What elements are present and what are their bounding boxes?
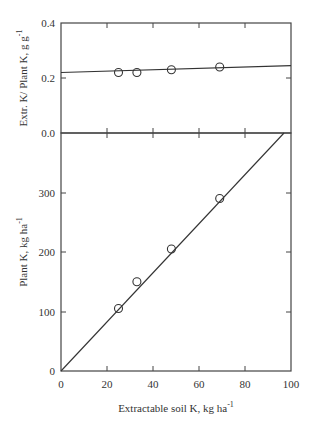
data-point (115, 305, 123, 313)
bottom-panel-ticks (61, 193, 291, 371)
xtick-label: 80 (240, 378, 252, 390)
top-y-axis-title: Extr. K/ Plant K, g g-1 (15, 30, 29, 127)
top-panel-x-ticks (61, 23, 291, 138)
bottom-ytick-label: 0 (50, 365, 56, 377)
data-point (133, 278, 141, 286)
xtick-label: 60 (194, 378, 206, 390)
bottom-ytick-label: 200 (39, 246, 56, 258)
top-ytick-label: 0.4 (41, 17, 55, 29)
bottom-data-points (115, 195, 224, 313)
x-axis-title: Extractable soil K, kg ha-1 (118, 400, 234, 414)
bottom-ytick-label: 300 (39, 187, 56, 199)
xtick-label: 40 (148, 378, 160, 390)
xtick-label: 100 (283, 378, 300, 390)
data-point (216, 63, 224, 71)
data-point (167, 245, 175, 253)
top-panel-frame (61, 23, 291, 133)
bottom-fit-line (61, 133, 284, 371)
top-ytick-label: 0.2 (41, 72, 55, 84)
xtick-label: 0 (58, 378, 64, 390)
data-point (115, 69, 123, 77)
bottom-ytick-label: 100 (39, 306, 56, 318)
top-fit-line (61, 66, 291, 73)
chart-figure: 0.4 0.2 0.0 300 200 100 0 0 20 40 60 80 … (0, 0, 312, 430)
bottom-y-axis-title: Plant K, kg ha-1 (15, 217, 29, 287)
bottom-panel-frame (61, 133, 291, 371)
xtick-label: 20 (102, 378, 114, 390)
top-ytick-label: 0.0 (41, 127, 55, 139)
